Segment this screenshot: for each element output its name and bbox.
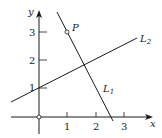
x-tick-label-1: 1 [64,121,70,132]
point-p-marker [65,30,69,34]
line-l2-label: L2 [139,33,152,46]
point-p-label: P [71,22,79,33]
coordinate-diagram: 1 2 3 1 2 3 x y P L1 L2 [0,0,162,138]
y-axis-label: y [27,6,34,17]
line-l1-label: L1 [102,83,114,96]
x-tick-label-3: 3 [121,121,127,132]
line-l2 [11,38,137,102]
line-l2-subscript: 2 [146,38,152,46]
y-tick-label-3: 3 [29,27,35,38]
line-l1 [57,12,113,121]
line-l1-subscript: 1 [110,88,114,96]
x-tick-label-2: 2 [93,121,99,132]
y-tick-label-2: 2 [29,55,35,66]
x-axis-label: x [150,118,156,129]
origin-marker [37,115,41,119]
